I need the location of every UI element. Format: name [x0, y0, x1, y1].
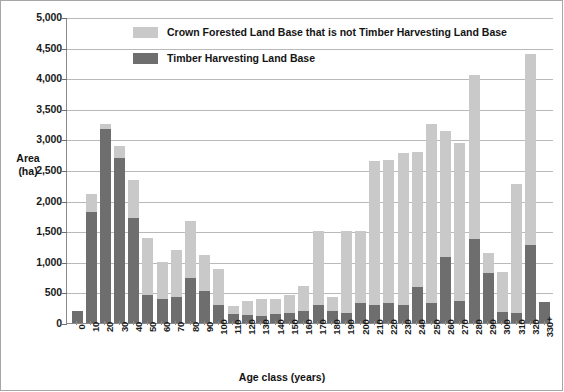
bar-segment-timber-harvesting — [100, 129, 111, 323]
x-axis-tick-label: 140 — [269, 326, 280, 368]
bar-segment-crown-forested — [298, 286, 309, 311]
x-axis-tick-label: 30 — [113, 326, 124, 368]
bar-segment-crown-forested — [86, 194, 97, 212]
bar-segment-crown-forested — [270, 299, 281, 314]
bar-segment-timber-harvesting — [185, 278, 196, 323]
x-axis-tick-label: 280 — [468, 326, 479, 368]
bar-segment-timber-harvesting — [157, 299, 168, 323]
bar-segment-crown-forested — [369, 161, 380, 305]
bar-segment-crown-forested — [483, 253, 494, 273]
x-axis-tick-labels: 0102030405060708090100110120130140150160… — [66, 326, 553, 370]
x-axis-tick-label: 170 — [312, 326, 323, 368]
bar-segment-timber-harvesting — [86, 212, 97, 323]
x-axis-tick-label: 150 — [283, 326, 294, 368]
bar-segment-crown-forested — [256, 299, 267, 317]
chart-legend: Crown Forested Land Base that is not Tim… — [133, 26, 507, 78]
x-axis-tick-label: 300 — [496, 326, 507, 368]
bar-segment-timber-harvesting — [412, 287, 423, 323]
x-axis-tick-label: 20 — [99, 326, 110, 368]
x-axis-tick-label: 120 — [241, 326, 252, 368]
bar-group — [100, 17, 111, 323]
legend-label-crown-forested: Crown Forested Land Base that is not Tim… — [167, 26, 507, 38]
bar-group — [539, 17, 550, 323]
x-axis-tick-label: 70 — [170, 326, 181, 368]
bar-segment-timber-harvesting — [114, 158, 125, 323]
x-axis-tick-label: 200 — [354, 326, 365, 368]
bar-segment-crown-forested — [355, 231, 366, 303]
bar-group — [114, 17, 125, 323]
x-axis-tick-label: 50 — [141, 326, 152, 368]
x-axis-tick-label: 40 — [127, 326, 138, 368]
bar-segment-timber-harvesting — [440, 257, 451, 323]
legend-label-timber-harvesting: Timber Harvesting Land Base — [167, 52, 315, 64]
legend-item-crown-forested: Crown Forested Land Base that is not Tim… — [133, 26, 507, 38]
bar-group — [511, 17, 522, 323]
y-axis-tick-label: 1,500 — [6, 225, 62, 237]
bar-segment-crown-forested — [142, 238, 153, 296]
bar-segment-crown-forested — [128, 180, 139, 218]
x-axis-tick-label: 60 — [156, 326, 167, 368]
bar-segment-crown-forested — [313, 231, 324, 304]
bar-segment-crown-forested — [114, 146, 125, 158]
bar-segment-timber-harvesting — [171, 297, 182, 323]
bar-segment-crown-forested — [228, 306, 239, 314]
x-axis-tick-label: 220 — [382, 326, 393, 368]
y-axis-tick-label: 4,000 — [6, 72, 62, 84]
x-axis-tick-label: 110 — [227, 326, 238, 368]
bar-segment-timber-harvesting — [72, 311, 83, 323]
x-axis-tick-label: 210 — [368, 326, 379, 368]
bar-segment-crown-forested — [440, 131, 451, 256]
bar-segment-crown-forested — [327, 297, 338, 311]
bar-segment-timber-harvesting — [199, 291, 210, 323]
x-axis-tick-label: 270 — [453, 326, 464, 368]
x-axis-tick-label: 240 — [411, 326, 422, 368]
x-axis-tick-label: 90 — [198, 326, 209, 368]
x-axis-tick-label: 160 — [297, 326, 308, 368]
bar-segment-timber-harvesting — [128, 218, 139, 323]
bar-segment-crown-forested — [199, 255, 210, 290]
bar-segment-crown-forested — [341, 231, 352, 313]
bar-segment-crown-forested — [412, 152, 423, 287]
x-axis-tick-label: 10 — [85, 326, 96, 368]
bar-segment-crown-forested — [213, 269, 224, 304]
x-axis-tick-label: 330+ — [538, 326, 549, 368]
bar-segment-crown-forested — [242, 301, 253, 315]
bar-segment-timber-harvesting — [142, 295, 153, 323]
bar-segment-crown-forested — [398, 153, 409, 305]
legend-item-timber-harvesting: Timber Harvesting Land Base — [133, 52, 507, 64]
x-axis-tick-label: 260 — [439, 326, 450, 368]
bar-segment-timber-harvesting — [483, 273, 494, 323]
bar-segment-crown-forested — [469, 75, 480, 240]
x-axis-tick-label: 290 — [482, 326, 493, 368]
x-axis-tick-label: 230 — [397, 326, 408, 368]
legend-swatch-timber-harvesting — [133, 53, 158, 64]
bar-group — [72, 17, 83, 323]
x-axis-title: Age class (years) — [0, 371, 564, 383]
bar-segment-crown-forested — [284, 295, 295, 313]
x-axis-tick-label: 130 — [255, 326, 266, 368]
chart-container: Area (ha) 5,0004,5004,0003,5003,0002,500… — [0, 0, 564, 392]
y-axis-tick-label: 1,000 — [6, 256, 62, 268]
bar-segment-timber-harvesting — [525, 245, 536, 323]
y-axis-tick-label: 4,500 — [6, 42, 62, 54]
x-axis-tick-label: 190 — [340, 326, 351, 368]
y-axis-tick-label: 2,500 — [6, 164, 62, 176]
bar-segment-crown-forested — [100, 124, 111, 129]
bar-segment-crown-forested — [497, 272, 508, 312]
bar-group — [525, 17, 536, 323]
bar-segment-timber-harvesting — [469, 239, 480, 323]
y-axis-tick-label: 5,000 — [6, 11, 62, 23]
legend-swatch-crown-forested — [133, 27, 158, 38]
y-axis-tick-label: 500 — [6, 286, 62, 298]
bar-segment-crown-forested — [171, 250, 182, 297]
y-axis-tick — [62, 324, 67, 325]
bar-segment-crown-forested — [511, 184, 522, 313]
y-axis-tick-label: 3,500 — [6, 103, 62, 115]
bar-group — [86, 17, 97, 323]
y-axis-tick-label: 0 — [6, 317, 62, 329]
x-axis-tick-label: 0 — [71, 326, 82, 368]
x-axis-tick-label: 320 — [524, 326, 535, 368]
bar-segment-crown-forested — [383, 160, 394, 303]
y-axis-tick-label: 3,000 — [6, 133, 62, 145]
bar-segment-crown-forested — [157, 262, 168, 299]
